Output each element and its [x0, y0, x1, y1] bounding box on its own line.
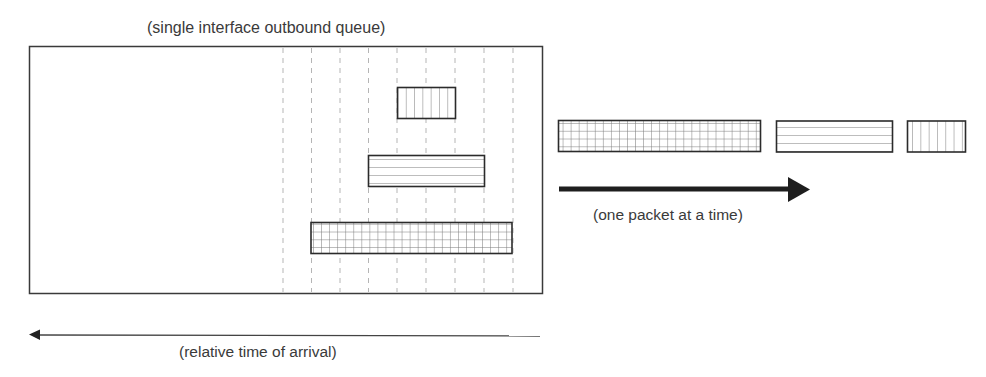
queued-packet-grid: [311, 223, 512, 254]
arrival-caption: (relative time of arrival): [179, 343, 337, 361]
output-packet-grid: [559, 121, 761, 152]
transmit-arrow: [559, 177, 810, 202]
queued-packet-vertical: [398, 88, 456, 119]
output-packet-horizontal: [777, 121, 893, 152]
transmit-caption: (one packet at a time): [593, 206, 743, 224]
queue-title: (single interface outbound queue): [147, 19, 385, 37]
output-packet-vertical: [908, 121, 966, 152]
arrival-time-arrow: [29, 330, 540, 341]
queued-packet-horizontal: [369, 156, 485, 187]
fifo-queue-diagram: [0, 0, 986, 377]
